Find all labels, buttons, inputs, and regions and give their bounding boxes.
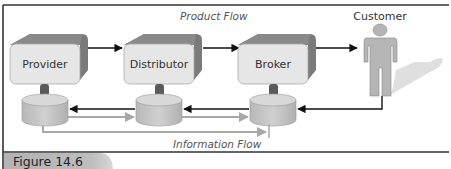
- database-provider: [22, 94, 68, 126]
- product-flow-label: Product Flow: [180, 10, 248, 22]
- arrow-customer-to-broker-db: [298, 96, 382, 109]
- supply-chain-diagram: Figure 14.6 Product Flow Provider Distri…: [0, 0, 451, 169]
- info-flow-return-arrows: [70, 96, 382, 109]
- customer-figure: Customer: [353, 10, 442, 96]
- node-provider: Provider: [10, 34, 88, 84]
- node-label-broker: Broker: [255, 58, 291, 71]
- node-broker: Broker: [238, 34, 316, 84]
- database-distributor: [136, 94, 182, 126]
- node-label-distributor: Distributor: [130, 58, 189, 71]
- node-label-provider: Provider: [22, 58, 68, 71]
- information-flow-label: Information Flow: [173, 138, 262, 150]
- customer-label: Customer: [353, 10, 407, 23]
- database-broker: [250, 94, 296, 126]
- arrow-provider-db-to-broker-db-bypass: [43, 126, 266, 132]
- figure-label-tab: Figure 14.6: [4, 153, 113, 169]
- node-distributor: Distributor: [124, 34, 202, 84]
- figure-label: Figure 14.6: [13, 154, 83, 169]
